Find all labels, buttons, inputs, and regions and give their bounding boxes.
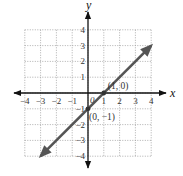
point-marker	[86, 106, 91, 111]
coordinate-plane: −4−3−2−112344321−1−2−3−40 (1, 0)(0, −1) …	[0, 0, 183, 176]
x-tick-label: 3	[133, 96, 138, 106]
x-tick-label: −2	[52, 96, 62, 106]
y-tick-label: 2	[81, 56, 86, 66]
x-tick-label: 4	[149, 96, 154, 106]
x-tick-label: 2	[117, 96, 122, 106]
y-tick-label: −4	[75, 151, 85, 161]
axes	[14, 12, 166, 168]
y-tick-label: 3	[81, 41, 86, 51]
y-tick-label: −3	[75, 135, 85, 145]
point-label: (1, 0)	[108, 81, 129, 92]
y-axis-label: y	[86, 0, 91, 13]
x-tick-label: −3	[36, 96, 46, 106]
y-tick-label: 4	[81, 25, 86, 35]
x-tick-label: 1	[102, 96, 107, 106]
y-tick-label: 1	[81, 72, 86, 82]
x-axis-label: x	[170, 86, 175, 101]
x-tick-label: −4	[20, 96, 30, 106]
point-label: (0, −1)	[89, 112, 115, 123]
point-marker	[101, 91, 106, 96]
